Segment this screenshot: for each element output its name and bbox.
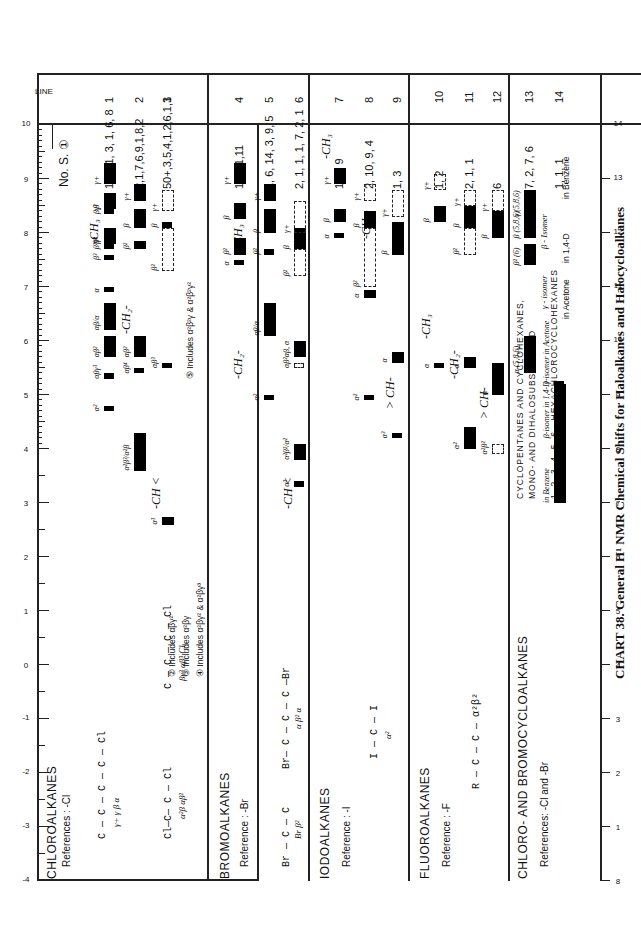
no-s-value: 6 — [492, 183, 503, 189]
shift-range-bar — [162, 190, 174, 212]
tau-tick-label: 3 — [24, 500, 28, 508]
structure-bromo-1-sub: Br β² — [294, 821, 303, 839]
shift-range-bar — [524, 336, 536, 374]
shift-range-bar — [104, 303, 116, 330]
group-ch-iodo: > CH- — [384, 377, 396, 409]
axis-tick — [37, 610, 49, 611]
axis-tick — [600, 232, 610, 233]
shift-range-bar — [492, 211, 504, 238]
shift-range-label: α — [423, 364, 431, 368]
rotated-chart-page: -4-3-2-1012345678910 LINE No. S. ① 81234… — [0, 0, 641, 939]
shift-range-label: γ-isomer in Acetone — [543, 321, 551, 384]
axis-tick — [37, 237, 42, 238]
shift-range-label: α² — [93, 405, 101, 412]
structure-bromo-2-sub: α β² α — [294, 708, 303, 729]
shift-range-bar — [104, 193, 116, 209]
shift-range-bar — [104, 255, 114, 260]
axis-tick — [600, 286, 610, 287]
shift-range-label: β² — [353, 281, 361, 287]
shift-range-label: β — [323, 218, 331, 222]
shift-range-label: β — [353, 224, 361, 228]
axis-tick — [37, 329, 42, 330]
shift-range-label: γ+ — [151, 203, 159, 212]
axis-tick — [600, 664, 610, 665]
no-s-value: 1, 6, 14, 3, 9, 5 — [264, 116, 275, 189]
tau-tick-label-bottom: 3 — [616, 716, 620, 724]
reference-iodo: Reference : -I — [342, 806, 352, 867]
shift-range-bar — [134, 184, 146, 200]
shift-range-bar — [264, 184, 276, 200]
shift-range-label: β — [423, 218, 431, 222]
axis-tick — [37, 135, 42, 136]
line-number: 7 — [334, 97, 345, 103]
ns-label: No. S. ① — [58, 139, 70, 187]
shift-range-label: β² — [223, 248, 231, 254]
tau-tick-label: -2 — [22, 768, 29, 776]
shift-range-bar — [492, 363, 504, 395]
line-number: 4 — [234, 97, 245, 103]
axis-tick — [37, 340, 49, 341]
note-3: ③ Includes α²βγ — [182, 616, 191, 677]
shift-range-bar — [134, 209, 146, 228]
shift-range-label: γ (5,8,6) — [513, 190, 521, 216]
no-s-value: 2, 1, 1 — [464, 158, 475, 189]
tau-tick-label: -3 — [22, 822, 29, 830]
line-number: 11 — [464, 92, 475, 103]
line-number: 1 — [104, 97, 115, 103]
axis-tick — [37, 475, 45, 476]
reference-cyclo: References: -Cl and -Br — [540, 762, 550, 867]
shift-range-bar — [104, 244, 114, 249]
shift-range-label: γ+ — [453, 197, 461, 206]
shift-range-label: α — [223, 261, 231, 265]
shift-range-label: α²β³/α²β — [123, 445, 131, 471]
tau-tick-label: 10 — [22, 120, 31, 128]
axis-tick — [37, 259, 45, 260]
shift-range-label: γ+ — [381, 208, 389, 217]
group-ch-chloro: -CH < — [150, 477, 162, 509]
shift-range-bar — [364, 228, 376, 287]
group-ch2-chloro: -CH₂- — [120, 305, 132, 334]
shift-range-label: α³ — [151, 518, 159, 525]
group-ch2-bromo: -CH₂- — [232, 350, 244, 379]
shift-range-bar — [104, 228, 116, 244]
axis-tick — [37, 389, 42, 390]
axis-tick — [37, 637, 45, 638]
axis-tick — [37, 194, 42, 195]
shift-range-label: β — [123, 224, 131, 228]
shift-range-bar — [104, 373, 114, 378]
tau-tick-label: 5 — [24, 392, 28, 400]
axis-tick — [37, 362, 42, 363]
shift-range-bar — [104, 209, 114, 214]
axis-tick — [37, 324, 42, 325]
shift-range-bar — [264, 303, 276, 335]
axis-tick — [37, 183, 42, 184]
axis-tick — [37, 270, 42, 271]
shift-range-label: α — [353, 294, 361, 298]
shift-range-label: γ+ — [223, 176, 231, 185]
shift-range-bar — [134, 368, 144, 373]
shift-range-label: α² — [353, 394, 361, 401]
shift-range-bar — [294, 341, 306, 357]
shift-range-bar — [162, 517, 174, 525]
axis-tick — [37, 372, 42, 373]
axis-tick — [37, 367, 45, 368]
shift-range-label: αβ/α — [253, 321, 261, 336]
line-number: 12 — [492, 91, 503, 103]
shift-range-bar — [434, 174, 446, 190]
line-number: 8 — [364, 97, 375, 103]
axis-tick — [600, 718, 610, 719]
axis-tick — [37, 583, 45, 584]
shift-range-label: β² — [253, 248, 261, 254]
no-s-value: 2, 1, 1, 1, 7, 2, 1 — [294, 110, 305, 190]
axis-tick — [37, 221, 42, 222]
tau-tick-label: -4 — [22, 876, 29, 884]
axis-tick — [37, 173, 42, 174]
shift-range-label: β² — [93, 237, 101, 243]
axis-tick — [37, 281, 42, 282]
tau-tick-label: 7 — [24, 284, 28, 292]
axis-tick — [37, 308, 42, 309]
frame-left — [37, 880, 257, 882]
shift-range-bar — [234, 203, 246, 219]
structure-bromo-2: Br— C — C — C —Br — [282, 667, 292, 769]
shift-range-bar — [392, 433, 402, 438]
